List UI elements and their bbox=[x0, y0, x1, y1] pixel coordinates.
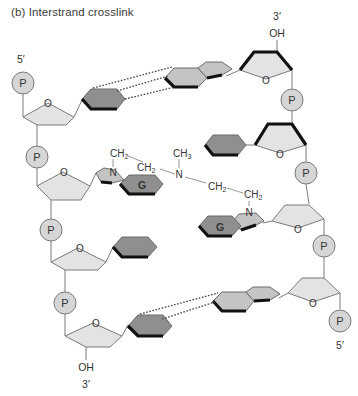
svg-text:O: O bbox=[60, 167, 68, 178]
phosphate-left-4: P bbox=[54, 292, 76, 314]
sugar-left-4: O bbox=[65, 318, 122, 347]
phosphate-left-1: P bbox=[12, 72, 34, 94]
svg-text:O: O bbox=[44, 98, 52, 109]
glycosidic-bond bbox=[90, 173, 96, 186]
base-right-1 bbox=[165, 62, 232, 87]
glycosidic-bond bbox=[106, 247, 113, 262]
glycosidic-bond bbox=[122, 325, 128, 336]
base-left-3 bbox=[113, 237, 157, 257]
phosphate-right-1: P bbox=[281, 89, 303, 111]
svg-text:P: P bbox=[336, 315, 343, 327]
guanine-right: G bbox=[199, 213, 264, 236]
base-left-1 bbox=[82, 89, 125, 109]
sugar-left-1: O bbox=[23, 98, 74, 125]
svg-text:O: O bbox=[276, 149, 284, 160]
sugar-left-2: O bbox=[37, 167, 90, 200]
right-3prime-label: 3′ bbox=[273, 10, 281, 22]
svg-text:O: O bbox=[309, 298, 317, 309]
left-3prime-oh: OH bbox=[78, 361, 94, 373]
phosphate-right-3: P bbox=[313, 235, 335, 257]
left-5prime-label: 5′ bbox=[17, 53, 25, 65]
svg-text:P: P bbox=[302, 167, 309, 179]
sugar-right-3: O bbox=[272, 205, 324, 235]
svg-text:P: P bbox=[19, 77, 26, 89]
dna-crosslink-diagram: .sugar { fill: #e3e3e3; stroke: #7a7a7a;… bbox=[0, 0, 358, 396]
crosslink-center-n: N bbox=[175, 169, 182, 180]
phosphate-right-4: P bbox=[329, 310, 351, 332]
sugar-right-1: O bbox=[240, 52, 292, 86]
right-5prime-label: 5′ bbox=[336, 339, 344, 351]
crosslink-right-ch2-a: CH2 bbox=[208, 181, 226, 193]
crosslink-right-n: N bbox=[245, 207, 252, 218]
svg-text:P: P bbox=[320, 240, 327, 252]
phosphate-left-3: P bbox=[40, 219, 62, 241]
sugar-left-3: O bbox=[51, 243, 106, 270]
sugar-right-2: O bbox=[255, 124, 306, 160]
phosphate-left-2: P bbox=[26, 146, 48, 168]
guanine-label: G bbox=[216, 221, 224, 233]
guanine-label: G bbox=[138, 179, 146, 191]
phosphate-right-2: P bbox=[295, 162, 317, 184]
svg-text:P: P bbox=[33, 151, 40, 163]
glycosidic-bond bbox=[74, 100, 82, 117]
svg-text:P: P bbox=[288, 94, 295, 106]
svg-text:P: P bbox=[47, 224, 54, 236]
crosslink-left-n: N bbox=[109, 167, 116, 178]
crosslink-center-ch3: CH3 bbox=[173, 148, 191, 160]
crosslink-right-ch2-b: CH2 bbox=[244, 189, 262, 201]
right-3prime-oh: OH bbox=[269, 27, 285, 39]
svg-text:O: O bbox=[294, 224, 302, 235]
crosslink-left-ch2-b: CH2 bbox=[137, 162, 155, 174]
backbone-bond bbox=[306, 184, 309, 204]
base-right-2 bbox=[205, 135, 246, 155]
svg-text:O: O bbox=[262, 75, 270, 86]
svg-text:P: P bbox=[61, 297, 68, 309]
sugar-right-4: O bbox=[288, 278, 340, 309]
crosslink-left-ch2-a: CH2 bbox=[110, 148, 128, 160]
svg-text:O: O bbox=[92, 318, 100, 329]
svg-text:O: O bbox=[76, 243, 84, 254]
left-3prime-label: 3′ bbox=[82, 378, 90, 390]
base-right-4 bbox=[213, 287, 280, 311]
left-strand: 5′ P O P O bbox=[12, 53, 172, 390]
